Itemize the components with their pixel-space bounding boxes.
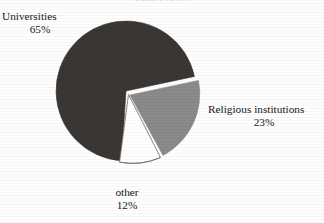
pie-chart-figure: ΥΛΙΚΑ ΣΕΛ 2 Universities 65% Religious i… (0, 0, 324, 223)
slice-label-religious: Religious institutions 23% (208, 103, 320, 128)
slice-label-religious-percent: 23% (208, 116, 320, 129)
slice-label-other-name: other (115, 186, 138, 198)
slice-label-other: other 12% (99, 186, 155, 211)
slice-label-universities: Universities 65% (2, 10, 78, 35)
slice-label-religious-name: Religious institutions (208, 103, 304, 115)
slice-label-other-percent: 12% (99, 199, 155, 212)
slice-label-universities-name: Universities (2, 10, 57, 22)
slice-label-universities-percent: 65% (2, 23, 78, 36)
